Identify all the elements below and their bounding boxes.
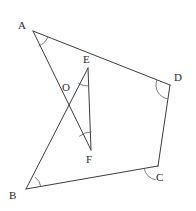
geometry-canvas [0, 0, 196, 211]
vertex-label-e: E [83, 54, 90, 65]
angle-C-arc [144, 168, 156, 180]
angle-D-arc [156, 80, 168, 99]
segments-group [26, 31, 170, 189]
angle-F-arc [79, 132, 91, 136]
angle-arcs-group [35, 37, 168, 187]
segment-AD [33, 31, 170, 85]
vertex-label-b: B [9, 190, 16, 201]
vertex-label-o: O [62, 82, 70, 93]
vertex-label-c: C [156, 172, 163, 183]
segment-CD [158, 85, 170, 166]
vertex-label-a: A [18, 20, 26, 31]
segment-EF [88, 68, 91, 150]
segment-BE [26, 68, 88, 189]
angle-B-arc [35, 177, 41, 187]
segment-BC [26, 166, 158, 189]
vertex-label-d: D [174, 72, 182, 83]
vertex-label-f: F [86, 154, 92, 165]
geometry-figure: ABCDEFO [0, 0, 196, 211]
